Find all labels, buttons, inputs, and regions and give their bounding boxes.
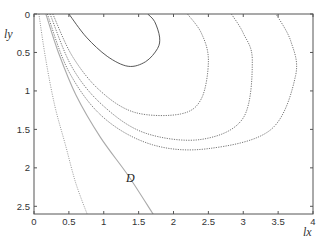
x-tick-label: 3.5: [272, 216, 285, 227]
curve-annotation-d: D: [125, 171, 135, 185]
curve-3: [50, 14, 252, 140]
x-tick-label: 2: [171, 216, 176, 227]
curve-6: [46, 14, 154, 216]
curve-5: [39, 14, 88, 216]
y-tick-label: 0: [25, 9, 30, 20]
y-axis-label: ly: [4, 27, 13, 41]
contour-chart: 00.511.522.533.54 00.511.522.5 lx ly D: [0, 0, 321, 245]
x-axis-label: lx: [303, 225, 312, 239]
x-tick-label: 0: [31, 216, 36, 227]
y-tick-label: 1.5: [17, 124, 30, 135]
y-tick-label: 0.5: [17, 47, 30, 58]
y-tick-label: 1: [25, 85, 30, 96]
x-tick-label: 2.5: [202, 216, 215, 227]
curve-1: [69, 14, 160, 66]
x-tick-label: 1.5: [132, 216, 145, 227]
y-tick-label: 2.5: [17, 201, 30, 212]
plot-frame: [34, 14, 313, 214]
y-tick-label: 2: [25, 162, 30, 173]
x-axis-ticks: 00.511.522.533.54: [31, 14, 315, 227]
x-tick-label: 0.5: [62, 216, 75, 227]
y-axis-ticks: 00.511.522.5: [17, 9, 313, 212]
x-tick-label: 1: [101, 216, 106, 227]
curve-4: [47, 14, 296, 150]
curve-2: [53, 14, 209, 116]
curves: [39, 14, 297, 216]
x-tick-label: 3: [241, 216, 246, 227]
